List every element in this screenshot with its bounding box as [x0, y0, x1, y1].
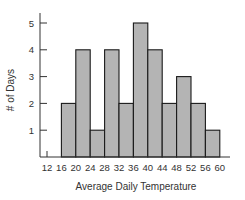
histogram-bar [191, 103, 205, 157]
x-tick-label: 24 [85, 162, 96, 173]
y-tick-label: 4 [29, 44, 34, 55]
y-tick-label: 5 [29, 18, 34, 29]
x-axis-title: Average Daily Temperature [76, 181, 197, 192]
y-tick-label: 1 [29, 125, 34, 136]
x-tick-label: 48 [171, 162, 182, 173]
histogram-bar [162, 103, 176, 157]
x-tick-label: 60 [215, 162, 226, 173]
histogram-bar [177, 77, 191, 157]
histogram-bar [76, 50, 90, 157]
x-tick-label: 40 [143, 162, 154, 173]
y-axis-ticks: 12345 [29, 18, 47, 136]
histogram-bar [105, 50, 119, 157]
x-tick-label: 16 [56, 162, 67, 173]
histogram-bar [133, 23, 147, 157]
x-tick-label: 28 [99, 162, 110, 173]
x-tick-label: 44 [157, 162, 168, 173]
x-tick-label: 56 [200, 162, 211, 173]
x-tick-label: 12 [42, 162, 53, 173]
histogram-chart: 12162024283236404448525660 12345 Average… [0, 0, 245, 200]
x-tick-label: 52 [186, 162, 197, 173]
histogram-bar [205, 130, 219, 157]
histogram-bar [61, 103, 75, 157]
x-tick-label: 20 [71, 162, 82, 173]
y-tick-label: 2 [29, 98, 34, 109]
x-tick-label: 36 [128, 162, 139, 173]
x-tick-label: 32 [114, 162, 125, 173]
bars-group [61, 23, 219, 157]
y-tick-label: 3 [29, 71, 34, 82]
y-axis-title: # of Days [5, 69, 16, 111]
histogram-bar [148, 50, 162, 157]
histogram-bar [90, 130, 104, 157]
histogram-bar [119, 103, 133, 157]
